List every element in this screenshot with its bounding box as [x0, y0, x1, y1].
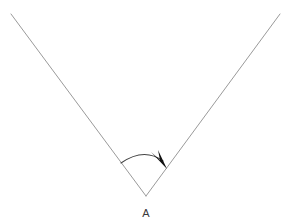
right-ray: [146, 14, 280, 196]
vertex-label-a: A: [142, 207, 150, 219]
angle-diagram-canvas: A: [0, 0, 286, 221]
left-ray: [11, 14, 146, 196]
angle-diagram-svg: A: [0, 0, 286, 221]
arrow-head-icon: [151, 150, 167, 169]
angle-arc: [121, 154, 163, 163]
